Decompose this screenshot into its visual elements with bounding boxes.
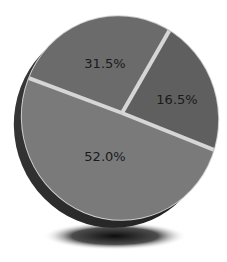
slice-label: 31.5% (84, 56, 125, 71)
slice-label: 16.5% (156, 92, 197, 107)
slice-label: 52.0% (84, 149, 125, 164)
pie-chart: 31.5% 16.5% 52.0% (0, 0, 227, 262)
